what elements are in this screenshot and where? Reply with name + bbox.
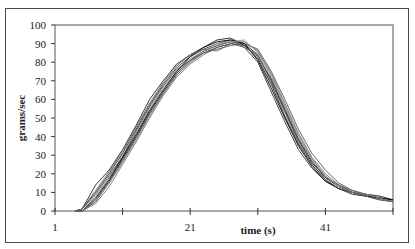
x-axis-title: time (s) [240, 224, 275, 237]
y-tick-label: 40 [35, 131, 47, 143]
y-tick-label: 20 [35, 168, 47, 180]
y-tick-label: 0 [41, 205, 47, 217]
y-tick-label: 90 [35, 38, 47, 50]
y-tick-label: 100 [30, 19, 47, 31]
line-chart: 010203040506070809010012141time (s)grams… [0, 0, 415, 249]
x-tick-label: 1 [52, 221, 58, 233]
y-tick-label: 10 [35, 186, 47, 198]
x-tick-label: 21 [185, 221, 196, 233]
y-tick-label: 30 [35, 149, 47, 161]
y-tick-label: 50 [35, 112, 47, 124]
y-tick-label: 60 [35, 93, 47, 105]
y-axis-title: grams/sec [15, 95, 27, 142]
plot-area [55, 25, 393, 211]
y-tick-label: 80 [35, 56, 47, 68]
y-tick-label: 70 [35, 75, 47, 87]
x-tick-label: 41 [320, 221, 331, 233]
